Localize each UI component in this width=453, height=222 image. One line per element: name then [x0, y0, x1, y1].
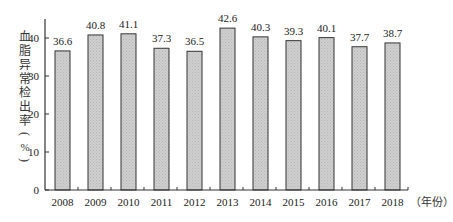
x-tick-label-2018: 2018 — [382, 196, 405, 208]
x-tick-label-2008: 2008 — [52, 196, 75, 208]
y-axis-label-open-paren: ( — [19, 127, 31, 141]
y-axis-label-char: 脂 — [18, 44, 32, 58]
y-axis-label-char: 异 — [18, 58, 32, 72]
data-label-2018: 38.7 — [383, 27, 403, 39]
x-axis-label: （年份） — [410, 195, 453, 208]
bar-2015 — [286, 41, 301, 190]
x-tick-label-2013: 2013 — [217, 196, 240, 208]
y-axis-label: 血脂异常检出率 ( % ) — [18, 30, 32, 166]
x-tick-label-2012: 2012 — [184, 196, 206, 208]
bar-2010 — [121, 34, 136, 190]
bar-2011 — [154, 48, 169, 190]
data-label-2013: 42.6 — [218, 12, 238, 24]
y-tick-label-0: 0 — [34, 184, 40, 196]
bar-2009 — [88, 35, 103, 190]
y-axis-label-text: 血脂异常检出率 — [18, 30, 32, 128]
data-label-2015: 39.3 — [284, 25, 304, 37]
x-tick-label-2014: 2014 — [250, 196, 273, 208]
x-tick-label-2011: 2011 — [151, 196, 173, 208]
x-tick-label-2010: 2010 — [118, 196, 141, 208]
bar-2017 — [352, 47, 367, 190]
bar-2016 — [319, 38, 334, 190]
bar-2008 — [55, 51, 70, 190]
data-label-2009: 40.8 — [86, 19, 106, 31]
y-axis-label-char: 率 — [18, 114, 32, 128]
data-label-2011: 37.3 — [152, 32, 172, 44]
data-label-2016: 40.1 — [317, 22, 336, 34]
bars-group — [55, 28, 400, 190]
x-tick-label-2017: 2017 — [349, 196, 372, 208]
data-label-2008: 36.6 — [53, 35, 73, 47]
data-label-2017: 37.7 — [350, 31, 370, 43]
bar-2012 — [187, 51, 202, 190]
bar-2014 — [253, 37, 268, 190]
y-axis-label-char: 血 — [18, 30, 32, 44]
x-tick-label-2016: 2016 — [316, 196, 339, 208]
bar-2013 — [220, 28, 235, 190]
y-axis-label-char: 出 — [18, 100, 32, 114]
y-axis-label-unit: % — [18, 140, 32, 154]
y-axis-label-char: 检 — [18, 86, 32, 100]
x-tick-label-2009: 2009 — [85, 196, 108, 208]
bar-chart: 36.640.841.137.336.542.640.339.340.137.7… — [0, 0, 453, 222]
data-label-2010: 41.1 — [119, 18, 138, 30]
bar-2018 — [385, 43, 400, 190]
y-axis-label-close-paren: ) — [19, 153, 31, 167]
y-axis-label-char: 常 — [18, 72, 32, 86]
data-label-2012: 36.5 — [185, 35, 205, 47]
x-tick-label-2015: 2015 — [283, 196, 306, 208]
data-label-2014: 40.3 — [251, 21, 271, 33]
